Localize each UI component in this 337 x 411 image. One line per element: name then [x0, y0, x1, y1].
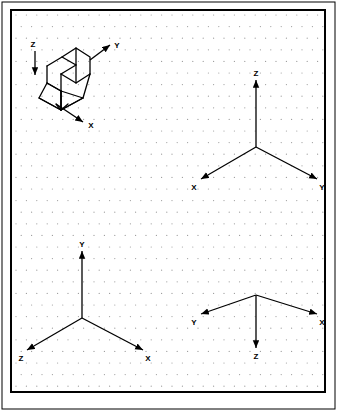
grid-dot [192, 339, 193, 340]
grid-dot [130, 362, 131, 363]
grid-dot [291, 281, 292, 282]
axis-label-y: Y [114, 41, 120, 50]
grid-dot [239, 328, 240, 329]
grid-dot [317, 246, 318, 247]
grid-dot [229, 281, 230, 282]
grid-dot [21, 142, 22, 143]
grid-dot [73, 281, 74, 282]
grid-dot [161, 200, 162, 201]
grid-dot [140, 386, 141, 387]
grid-dot [286, 339, 287, 340]
grid-dot [286, 386, 287, 387]
grid-dot [171, 270, 172, 271]
grid-dot [135, 72, 136, 73]
grid-dot [265, 316, 266, 317]
grid-dot [73, 212, 74, 213]
grid-dot [21, 26, 22, 27]
grid-dot [218, 281, 219, 282]
grid-dot [260, 258, 261, 259]
grid-dot [93, 26, 94, 27]
grid-dot [47, 362, 48, 363]
grid-dot [88, 362, 89, 363]
grid-dot [291, 119, 292, 120]
grid-dot [223, 293, 224, 294]
grid-dot [244, 293, 245, 294]
grid-dot [281, 49, 282, 50]
grid-dot [15, 362, 16, 363]
grid-dot [26, 61, 27, 62]
grid-dot [21, 281, 22, 282]
grid-dot [73, 188, 74, 189]
grid-dot [281, 96, 282, 97]
grid-dot [218, 351, 219, 352]
grid-dot [36, 14, 37, 15]
grid-dot [197, 49, 198, 50]
grid-dot [239, 374, 240, 375]
grid-dot [234, 223, 235, 224]
grid-dot [156, 72, 157, 73]
grid-dot [57, 362, 58, 363]
grid-dot [21, 188, 22, 189]
grid-dot [322, 165, 323, 166]
grid-dot [192, 107, 193, 108]
grid-dot [119, 38, 120, 39]
grid-dot [260, 119, 261, 120]
grid-dot [52, 96, 53, 97]
grid-dot [151, 270, 152, 271]
grid-dot [296, 339, 297, 340]
grid-dot [99, 154, 100, 155]
grid-dot [192, 84, 193, 85]
grid-dot [286, 270, 287, 271]
grid-dot [125, 72, 126, 73]
grid-dot [125, 49, 126, 50]
grid-dot [93, 212, 94, 213]
grid-dot [249, 119, 250, 120]
grid-dot [119, 130, 120, 131]
grid-dot [31, 72, 32, 73]
grid-dot [109, 200, 110, 201]
grid-dot [151, 38, 152, 39]
grid-dot [135, 26, 136, 27]
grid-dot [99, 386, 100, 387]
grid-dot [73, 72, 74, 73]
grid-dot [26, 130, 27, 131]
grid-dot [213, 316, 214, 317]
grid-dot [208, 96, 209, 97]
grid-dot [307, 177, 308, 178]
grid-dot [213, 223, 214, 224]
grid-dot [31, 258, 32, 259]
grid-dot [171, 339, 172, 340]
grid-dot [244, 107, 245, 108]
grid-dot [88, 84, 89, 85]
grid-dot [140, 107, 141, 108]
grid-dot [322, 72, 323, 73]
grid-dot [255, 14, 256, 15]
grid-dot [47, 223, 48, 224]
grid-dot [83, 26, 84, 27]
grid-dot [47, 339, 48, 340]
grid-dot [93, 165, 94, 166]
grid-dot [156, 351, 157, 352]
axis-label-y: Y [79, 240, 85, 249]
grid-dot [109, 246, 110, 247]
grid-dot [161, 386, 162, 387]
grid-dot [255, 293, 256, 294]
grid-dot [88, 339, 89, 340]
grid-dot [244, 177, 245, 178]
grid-dot [104, 235, 105, 236]
grid-dot [73, 328, 74, 329]
grid-dot [36, 61, 37, 62]
grid-dot [275, 130, 276, 131]
grid-dot [83, 119, 84, 120]
grid-dot [203, 316, 204, 317]
grid-dot [208, 374, 209, 375]
grid-dot [26, 316, 27, 317]
grid-dot [203, 130, 204, 131]
grid-dot [140, 177, 141, 178]
grid-dot [270, 188, 271, 189]
grid-dot [145, 328, 146, 329]
grid-dot [213, 293, 214, 294]
grid-dot [286, 177, 287, 178]
grid-dot [156, 304, 157, 305]
grid-dot [307, 130, 308, 131]
